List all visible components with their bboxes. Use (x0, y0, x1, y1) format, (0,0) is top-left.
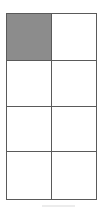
grid-cell-r1c1[interactable] (52, 61, 97, 107)
table-row (7, 61, 97, 107)
grid-cell-r0c0-selected[interactable] (7, 14, 52, 61)
grid-table (6, 13, 97, 200)
grid-cell-r0c1[interactable] (52, 14, 97, 61)
page-root (0, 0, 107, 213)
table-row (7, 152, 97, 200)
grid-cell-r1c0[interactable] (7, 61, 52, 107)
faint-bottom-rule (42, 205, 75, 207)
grid-table-body (7, 14, 97, 200)
grid-cell-r3c1[interactable] (52, 152, 97, 200)
grid-cell-r2c1[interactable] (52, 107, 97, 152)
grid-cell-r2c0[interactable] (7, 107, 52, 152)
grid-cell-r3c0[interactable] (7, 152, 52, 200)
table-row (7, 14, 97, 61)
table-row (7, 107, 97, 152)
